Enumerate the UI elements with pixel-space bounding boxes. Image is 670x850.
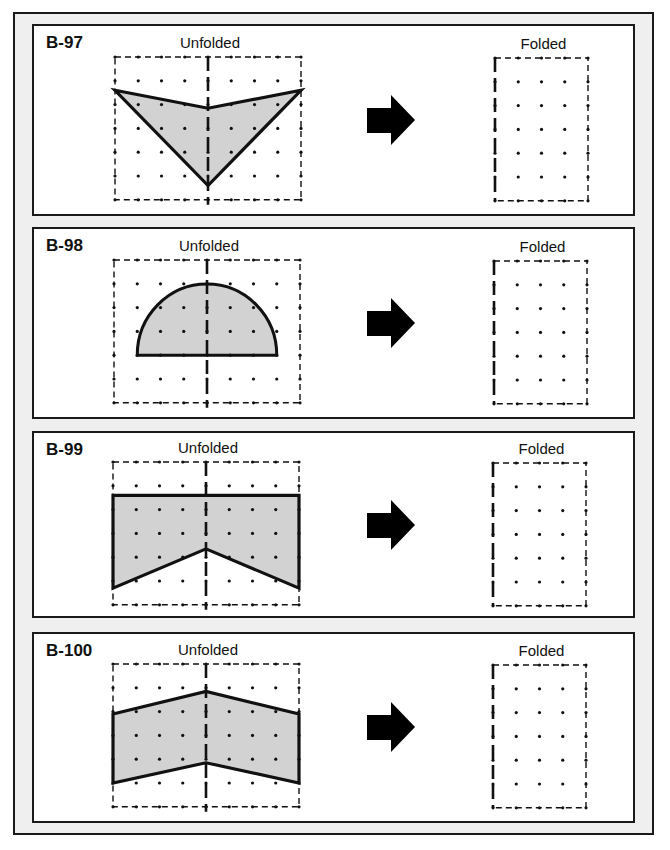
right-arrow-icon xyxy=(367,702,415,752)
problem-panel: B-100UnfoldedFolded xyxy=(32,632,635,823)
fold-diagram xyxy=(0,0,670,850)
